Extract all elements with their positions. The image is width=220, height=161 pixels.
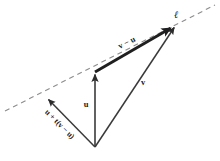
label-u: u: [84, 99, 89, 109]
label-v: v: [141, 77, 146, 87]
label-line-ell: ℓ: [174, 9, 178, 20]
line-ell: [5, 5, 215, 111]
vector-diagram: ℓ v − u u v u + t(v − u): [0, 0, 220, 161]
label-u-plus-t-v-minus-u: u + t(v − u): [43, 108, 76, 141]
diagram-canvas: ℓ v − u u v u + t(v − u): [0, 0, 220, 161]
